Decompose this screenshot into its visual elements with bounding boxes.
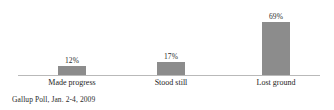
bar-value-label: 17% [121,52,221,61]
bar-category-label: Made progress [22,77,122,88]
bar-group-lost-ground: 69% Lost ground [226,0,326,92]
bar-rect [157,62,185,75]
bar-rect [58,66,86,75]
bar-group-made-progress: 12% Made progress [22,0,122,92]
plot-area: 12% Made progress 17% Stood still 69% Lo… [0,0,334,92]
bar-rect [262,22,290,75]
bar-group-stood-still: 17% Stood still [121,0,221,92]
bar-value-label: 69% [226,12,326,21]
bar-value-label: 12% [22,56,122,65]
source-caption: Gallup Poll, Jan. 2-4, 2009 [12,95,95,104]
bar-chart-figure: 12% Made progress 17% Stood still 69% Lo… [0,0,334,110]
bar-category-label: Lost ground [226,77,326,88]
bar-category-label: Stood still [121,77,221,88]
